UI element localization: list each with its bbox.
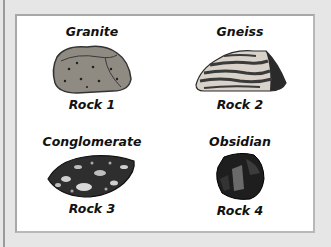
- rock-card-2: Gneiss Rock 2: [165, 24, 315, 112]
- granite-rock-icon: [47, 39, 137, 97]
- obsidian-rock-icon: [210, 149, 270, 203]
- conglomerate-rock-icon: [44, 149, 140, 201]
- rock-label: Rock 2: [165, 97, 315, 112]
- rock-name: Gneiss: [165, 24, 315, 39]
- rock-label: Rock 4: [165, 203, 315, 218]
- rock-name: Obsidian: [165, 134, 315, 149]
- rock-name: Conglomerate: [17, 134, 167, 149]
- rock-card-3: Conglomerate Rock 3: [17, 134, 167, 216]
- rock-label: Rock 3: [17, 201, 167, 216]
- gneiss-rock-icon: [190, 39, 290, 97]
- rock-panel: Granite Rock 1 Gneiss Rock 2 Conglomera: [15, 14, 315, 233]
- rock-card-4: Obsidian Rock 4: [165, 134, 315, 218]
- frame-edge: [3, 0, 5, 247]
- rock-label: Rock 1: [17, 97, 167, 112]
- rock-name: Granite: [17, 24, 167, 39]
- rock-card-1: Granite Rock 1: [17, 24, 167, 112]
